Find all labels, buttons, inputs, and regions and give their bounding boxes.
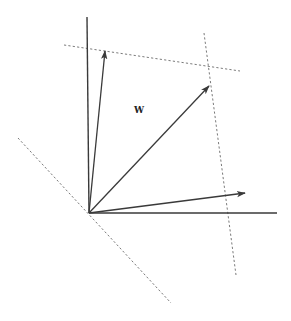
subspace-label: W [133,105,145,115]
dashed-top [64,45,240,71]
vector-upper [89,51,105,213]
vector-lower [89,193,245,213]
dashed-lines [18,33,240,303]
vectors [89,51,245,213]
vertical-axis [87,17,89,213]
vector-diagonal [89,86,209,213]
vector-diagram: W [0,0,291,321]
